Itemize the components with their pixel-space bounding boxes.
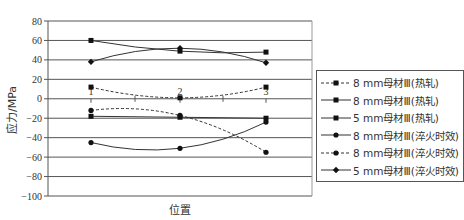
legend-item: 8 mm母材Ⅲ(淬火时效) xyxy=(321,145,459,160)
y-tick-label: 60 xyxy=(32,35,42,46)
legend-label: 5 mm母材Ⅲ(热轧) xyxy=(353,110,439,125)
y-tick-label: 20 xyxy=(32,74,42,85)
series-5 xyxy=(88,45,269,66)
y-axis-label: 应力/MPa xyxy=(5,86,19,134)
y-axis-ticks: 806040200−20−40−60−80−100 xyxy=(21,16,42,202)
series-3 xyxy=(88,120,268,151)
legend-item: 8 mm母材Ⅲ(热轧) xyxy=(321,93,439,108)
y-tick-label: 80 xyxy=(32,16,42,27)
circle-marker-icon xyxy=(321,148,351,158)
legend-item: 5 mm母材Ⅲ(热轧) xyxy=(321,110,439,125)
y-tick-label: −100 xyxy=(21,191,42,202)
legend-label: 8 mm母材Ⅲ(淬火时效) xyxy=(353,145,459,160)
square-marker-icon xyxy=(321,78,351,88)
legend-label: 5 mm母材Ⅲ(淬火时效) xyxy=(353,163,459,178)
legend-item: 8 mm母材Ⅲ(淬火时效) xyxy=(321,128,459,143)
diamond-marker-icon xyxy=(321,165,351,175)
legend-item: 5 mm母材Ⅲ(淬火时效) xyxy=(321,163,459,178)
legend-label: 8 mm母材Ⅲ(淬火时效) xyxy=(353,128,459,143)
y-tick-label: −80 xyxy=(26,171,42,182)
legend-item: 8 mm母材Ⅲ(热轧) xyxy=(321,75,439,90)
y-tick-label: −20 xyxy=(26,113,42,124)
y-tick-label: −60 xyxy=(26,152,42,163)
circle-marker-icon xyxy=(321,130,351,140)
square-marker-icon xyxy=(321,113,351,123)
legend-label: 8 mm母材Ⅲ(热轧) xyxy=(353,75,439,90)
x-axis-label: 位置 xyxy=(169,203,191,217)
legend-label: 8 mm母材Ⅲ(热轧) xyxy=(353,93,439,108)
y-tick-label: 40 xyxy=(32,54,42,65)
y-tick-label: 0 xyxy=(37,93,42,104)
y-tick-label: −40 xyxy=(26,132,42,143)
square-marker-icon xyxy=(321,95,351,105)
x-tick-label: 2 xyxy=(178,86,183,97)
legend: 8 mm母材Ⅲ(热轧)8 mm母材Ⅲ(热轧)5 mm母材Ⅲ(热轧)8 mm母材Ⅲ… xyxy=(316,70,464,182)
